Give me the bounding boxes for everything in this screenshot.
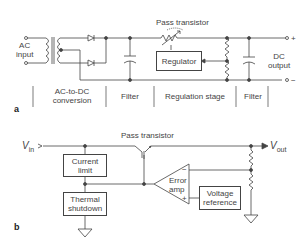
circuit-diagram (0, 0, 300, 248)
vref-line1: Voltage (207, 189, 234, 198)
vout-sub: out (277, 146, 287, 153)
plus-terminal: + (291, 34, 296, 43)
dc-output-line1: DC (268, 52, 290, 61)
ac-input-line2: input (16, 50, 33, 59)
minus-terminal: − (291, 76, 296, 85)
error-amp-label: Error amp (169, 176, 187, 194)
error-amp-line2: amp (169, 185, 187, 194)
stage-filter-1: Filter (114, 92, 146, 101)
stage-ac-dc-line2: conversion (48, 96, 96, 105)
current-limit-line1: Current (72, 157, 99, 166)
error-amp-line1: Error (169, 176, 187, 185)
thermal-line2: shutdown (68, 204, 102, 213)
regulator-label: Regulator (162, 57, 197, 66)
voltage-reference-box: Voltage reference (199, 186, 241, 210)
amp-minus: − (182, 165, 187, 174)
stage-filter-2: Filter (238, 92, 268, 101)
thermal-line1: Thermal (70, 195, 99, 204)
stage-ac-dc: AC-to-DC conversion (48, 87, 96, 105)
stage-ac-dc-line1: AC-to-DC (48, 87, 96, 96)
vin-sub: in (29, 146, 34, 153)
vout-v: V (270, 140, 277, 151)
current-limit-line2: limit (78, 166, 92, 175)
dc-output-label: DC output (268, 52, 290, 70)
vin-label: Vin (22, 141, 34, 154)
panel-a-label: a (14, 104, 19, 114)
amp-plus: + (182, 194, 187, 203)
pass-transistor-label-b: Pass transistor (121, 131, 174, 140)
panel-b-label: b (14, 222, 20, 232)
thermal-shutdown-box: Thermal shutdown (63, 192, 107, 216)
vout-label: Vout (270, 141, 286, 154)
pass-transistor-label-a: Pass transistor (156, 18, 209, 27)
dc-output-line2: output (268, 61, 290, 70)
vref-line2: reference (203, 198, 237, 207)
stage-regulation: Regulation stage (162, 92, 228, 101)
vin-v: V (22, 140, 29, 151)
ac-input-line1: AC (16, 41, 33, 50)
current-limit-box: Current limit (63, 154, 107, 177)
regulator-box: Regulator (156, 51, 202, 71)
ac-input-label: AC input (16, 41, 33, 59)
